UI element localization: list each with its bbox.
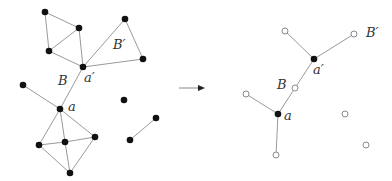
left-graph-edges: [23, 12, 156, 173]
right-edge: [246, 94, 278, 114]
left-edge: [49, 28, 79, 51]
left-edge: [39, 142, 65, 145]
right-edge: [276, 114, 278, 155]
left-edge: [130, 118, 156, 140]
right-node-B_node: [292, 85, 298, 91]
left-edge: [45, 12, 49, 51]
label-B-prime-right: B′: [366, 26, 379, 39]
left-node-n7: [20, 82, 27, 89]
right-node-r2: [351, 31, 357, 37]
label-a-prime-left: a′: [84, 71, 95, 84]
left-node-n3: [46, 48, 53, 55]
left-node-n1: [42, 9, 49, 16]
arrow-head-icon: [198, 85, 205, 91]
left-edge: [83, 59, 143, 67]
right-node-r4: [243, 91, 249, 97]
left-node-n14: [153, 115, 160, 122]
left-node-n11: [92, 134, 99, 141]
right-node-r1: [282, 28, 288, 34]
right-node-a: [275, 111, 282, 118]
left-node-n13: [121, 97, 128, 104]
left-edge: [49, 51, 83, 67]
left-node-n5: [122, 16, 129, 23]
diagram-canvas: B B′ a′ a B′ a′ B a: [0, 0, 392, 181]
label-B-right: B: [277, 78, 287, 91]
left-node-n12: [67, 170, 74, 177]
label-a-prime-right: a′: [313, 63, 324, 76]
left-node-n15: [127, 137, 134, 144]
left-node-n9: [36, 142, 43, 149]
right-edge: [295, 59, 314, 88]
graph-svg: [0, 0, 392, 181]
right-edge: [314, 34, 354, 59]
label-B-left: B: [58, 74, 68, 87]
left-edge: [65, 137, 95, 142]
right-graph-edges: [246, 31, 354, 155]
left-edge: [45, 12, 79, 28]
label-B-prime-left: B′: [113, 38, 126, 51]
left-edge: [60, 109, 65, 142]
transform-arrow: [179, 85, 205, 91]
left-node-n2: [76, 25, 83, 32]
right-graph-nodes: [243, 28, 369, 158]
left-node-n6: [140, 56, 147, 63]
right-node-r7: [342, 111, 348, 117]
left-edge: [39, 145, 70, 173]
left-graph-nodes: [20, 9, 160, 177]
left-node-n10: [62, 139, 69, 146]
left-edge: [60, 109, 95, 137]
left-edge: [70, 137, 95, 173]
left-edge: [39, 109, 60, 145]
right-node-r6: [273, 152, 279, 158]
label-a-left: a: [68, 100, 76, 113]
right-node-r8: [363, 142, 369, 148]
left-edge: [23, 85, 60, 109]
left-edge: [125, 19, 143, 59]
left-edge: [79, 28, 83, 67]
left-edge: [65, 142, 70, 173]
left-node-a: [57, 106, 64, 113]
right-edge: [285, 31, 314, 59]
label-a-right: a: [284, 109, 292, 122]
